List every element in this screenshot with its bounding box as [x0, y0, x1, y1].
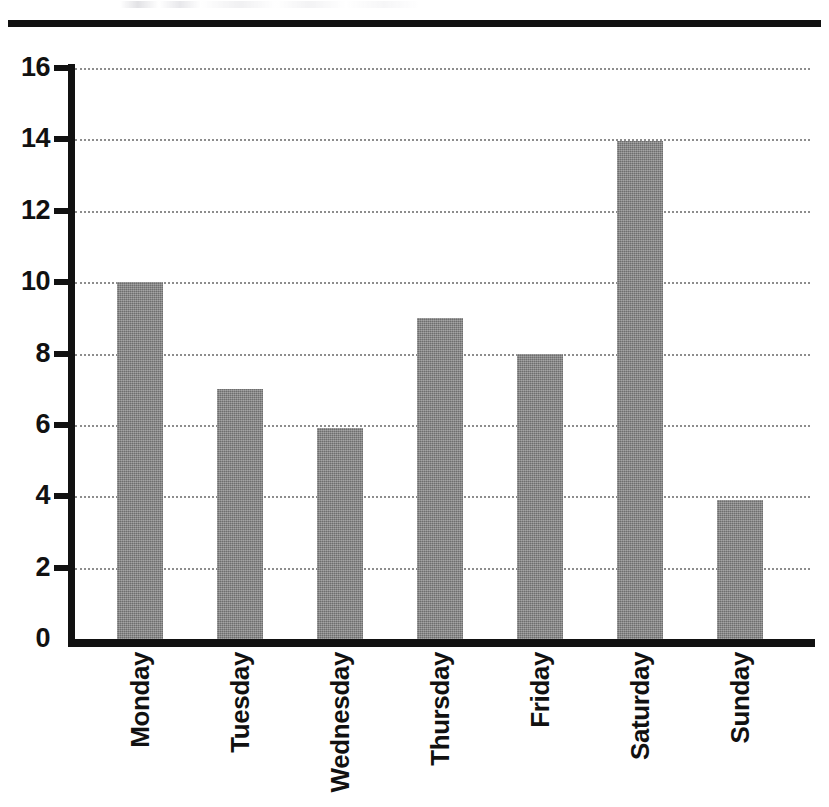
- y-axis-tick-label: 0: [2, 625, 50, 652]
- y-axis-tick-label: 8: [2, 340, 50, 367]
- x-axis-category-label: Wednesday: [317, 652, 363, 802]
- x-axis-category-label-text: Friday: [525, 652, 556, 728]
- x-axis-category-label-text: Thursday: [425, 652, 456, 766]
- x-axis-category-label-text: Saturday: [625, 652, 656, 760]
- x-axis-category-label: Thursday: [417, 652, 463, 802]
- y-axis-tick: [54, 65, 69, 71]
- bar: [717, 500, 763, 639]
- y-axis-tick: [54, 208, 69, 214]
- bar-series: [75, 68, 810, 639]
- plot-area: [75, 68, 810, 639]
- y-axis-tick: [54, 351, 69, 357]
- scan-artifact-text-remnant: [120, 1, 420, 8]
- y-axis-tick-label: 12: [2, 197, 50, 224]
- x-axis-category-label-text: Wednesday: [325, 652, 356, 792]
- y-axis-tick-label: 4: [2, 482, 50, 509]
- y-axis-tick: [54, 279, 69, 285]
- bar-chart: 0246810121416 MondayTuesdayWednesdayThur…: [0, 40, 829, 807]
- y-axis-tick-label: 2: [2, 554, 50, 581]
- y-axis-tick-label: 16: [2, 54, 50, 81]
- y-axis-tick: [54, 493, 69, 499]
- bar: [417, 318, 463, 639]
- y-axis-line: [68, 64, 75, 647]
- x-axis-category-label: Sunday: [717, 652, 763, 802]
- bar: [517, 354, 563, 640]
- x-axis-category-label: Saturday: [617, 652, 663, 802]
- x-axis-category-labels: MondayTuesdayWednesdayThursdayFridaySatu…: [75, 652, 810, 802]
- y-axis-tick-label: 6: [2, 411, 50, 438]
- x-axis-category-label-text: Sunday: [725, 652, 756, 744]
- bar: [217, 389, 263, 639]
- x-axis-category-label: Tuesday: [217, 652, 263, 802]
- x-axis-category-label-text: Monday: [125, 652, 156, 748]
- bar: [317, 428, 363, 639]
- y-axis-tick: [54, 422, 69, 428]
- y-axis-tick: [54, 136, 69, 142]
- bar: [617, 141, 663, 639]
- y-axis-tick: [54, 565, 69, 571]
- x-axis-category-label-text: Tuesday: [225, 652, 256, 753]
- x-axis-category-label: Friday: [517, 652, 563, 802]
- x-axis-line: [68, 639, 815, 647]
- y-axis-tick-label: 10: [2, 268, 50, 295]
- y-axis-tick-label: 14: [2, 125, 50, 152]
- x-axis-category-label: Monday: [117, 652, 163, 802]
- bar: [117, 282, 163, 639]
- top-horizontal-rule: [8, 20, 821, 27]
